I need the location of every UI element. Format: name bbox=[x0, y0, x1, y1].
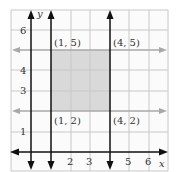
point-label-4-5: (4, 5) bbox=[113, 37, 140, 48]
y-tick-1: 1 bbox=[20, 126, 26, 137]
y-tick-4: 4 bbox=[20, 65, 26, 76]
y-tick-3: 3 bbox=[20, 85, 26, 96]
coordinate-graph: y x 2 3 5 6 1 3 4 6 (1, 5) (4, 5) (1, 2)… bbox=[0, 0, 176, 172]
point-label-1-2: (1, 2) bbox=[54, 115, 81, 126]
x-tick-2: 2 bbox=[67, 156, 73, 167]
shaded-region bbox=[51, 50, 110, 111]
x-axis-label: x bbox=[159, 158, 165, 169]
point-label-1-5: (1, 5) bbox=[54, 37, 81, 48]
x-tick-3: 3 bbox=[86, 156, 92, 167]
y-tick-6: 6 bbox=[20, 25, 26, 36]
y-axis-label: y bbox=[36, 8, 43, 19]
point-label-4-2: (4, 2) bbox=[113, 115, 140, 126]
x-tick-6: 6 bbox=[145, 156, 151, 167]
x-tick-5: 5 bbox=[125, 156, 131, 167]
